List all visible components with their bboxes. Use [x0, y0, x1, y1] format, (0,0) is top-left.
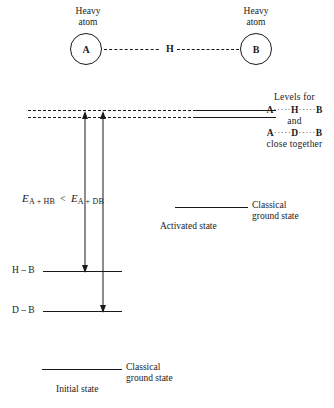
activation-energy-equation: EA + HB<EA + DB — [22, 192, 104, 206]
levels-note-a2: A — [267, 128, 274, 138]
initial-classical-line-1: Classical — [126, 362, 216, 373]
dots-icon: ····· — [299, 104, 317, 114]
db-level-line — [43, 311, 122, 312]
levels-note-b2: B — [316, 128, 323, 138]
activated-classical-line-1: Classical — [252, 200, 332, 211]
hb-level-line — [43, 271, 122, 272]
levels-note-line-5: close together — [255, 139, 334, 151]
atom-circle-b: B — [240, 33, 272, 65]
equation-operator: < — [55, 193, 71, 204]
energy-arrow-db — [95, 105, 113, 317]
dots-icon: ····· — [273, 104, 291, 114]
levels-note-line-2: A·····H·····B — [255, 104, 334, 116]
energy-arrow-hb — [77, 105, 95, 277]
activated-classical-label: Classical ground state — [252, 200, 332, 222]
atom-label-a: A — [82, 44, 89, 55]
levels-note-line-4: A·····D·····B — [255, 127, 334, 139]
atom-label-b: B — [253, 44, 260, 55]
dots-icon: ····· — [274, 127, 292, 137]
equation-right-E: E — [71, 192, 78, 204]
energy-level-diagram: Heavy atom A H Heavy atom B Levels for A… — [0, 0, 334, 408]
bond-h-b — [177, 49, 239, 50]
activated-classical-line-2: ground state — [252, 211, 332, 222]
initial-classical-line-2: ground state — [126, 373, 216, 384]
initial-classical-label: Classical ground state — [126, 362, 216, 384]
right-atom-caption: Heavy atom — [226, 6, 286, 27]
equation-left-E: E — [22, 192, 29, 204]
equation-right-subscript: A + DB — [78, 197, 104, 206]
activated-state-label: Activated state — [160, 221, 260, 232]
initial-classical-ground-line — [42, 369, 122, 370]
initial-state-label: Initial state — [56, 384, 156, 395]
levels-note: Levels for A·····H·····B and A·····D····… — [255, 92, 334, 151]
levels-note-line-1: Levels for — [255, 92, 334, 104]
levels-note-h: H — [291, 104, 299, 114]
levels-note-line-3: and — [255, 116, 334, 128]
left-atom-caption: Heavy atom — [58, 6, 118, 27]
dots-icon: ····· — [298, 127, 316, 137]
bond-a-h — [104, 49, 164, 50]
equation-left-subscript: A + HB — [29, 197, 55, 206]
levels-note-b1: B — [316, 104, 323, 114]
atom-circle-a: A — [70, 33, 102, 65]
activated-classical-ground-line — [175, 207, 248, 208]
